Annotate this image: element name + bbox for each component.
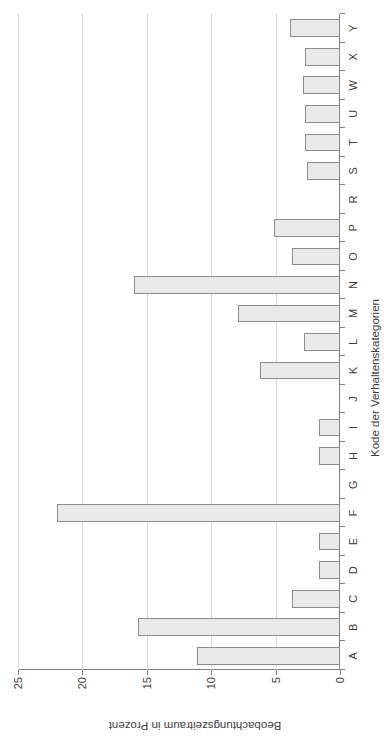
category-axis-tick	[340, 384, 345, 385]
category-axis-tick-label: T	[348, 139, 359, 146]
category-axis-tick-label: U	[348, 110, 359, 118]
category-axis-tick-label: G	[348, 480, 359, 489]
gridline	[18, 14, 19, 670]
category-axis-tick-label: F	[348, 510, 359, 517]
gridline	[211, 14, 212, 670]
category-axis-tick-label: W	[348, 80, 359, 90]
category-axis-title: Kode der Verhaltenskategorien	[369, 299, 381, 457]
category-axis-tick	[340, 583, 345, 584]
bar[interactable]	[260, 362, 340, 380]
category-axis-tick	[340, 184, 345, 185]
value-axis-tick-label: 25	[13, 677, 24, 689]
category-axis-tick-label: R	[348, 195, 359, 203]
category-axis-tick	[340, 13, 345, 14]
value-axis-tick	[18, 670, 19, 675]
value-axis-tick	[82, 670, 83, 675]
category-axis-tick-label: A	[348, 652, 359, 659]
category-axis-tick	[340, 555, 345, 556]
value-axis-title: Beobachtungszeitraum in Prozent	[108, 720, 281, 732]
bar[interactable]	[319, 533, 340, 551]
category-axis-tick	[340, 127, 345, 128]
category-axis-tick	[340, 612, 345, 613]
bar[interactable]	[305, 134, 340, 152]
category-axis-tick-label: H	[348, 452, 359, 460]
category-axis-tick	[340, 412, 345, 413]
bar[interactable]	[197, 647, 340, 665]
value-axis-tick	[276, 670, 277, 675]
category-axis-tick	[340, 156, 345, 157]
gridline	[276, 14, 277, 670]
category-axis-tick	[340, 327, 345, 328]
category-axis-tick	[340, 669, 345, 670]
bar[interactable]	[57, 504, 340, 522]
bar[interactable]	[307, 162, 340, 180]
category-axis-tick-label: K	[348, 367, 359, 374]
gridline	[82, 14, 83, 670]
category-axis-tick	[340, 42, 345, 43]
category-axis-tick	[340, 213, 345, 214]
category-axis-tick-label: Y	[348, 25, 359, 32]
category-axis-tick-label: M	[348, 309, 359, 318]
category-axis-tick-label: L	[348, 339, 359, 345]
value-axis-tick-label: 10	[206, 677, 217, 689]
rotated-figure-container: Beobachtungszeitraum in Prozent Kode der…	[0, 0, 389, 756]
category-axis-tick	[340, 441, 345, 442]
value-axis-tick-label: 20	[77, 677, 88, 689]
bar[interactable]	[305, 105, 340, 123]
bar[interactable]	[319, 419, 340, 437]
category-axis-tick-label: S	[348, 167, 359, 174]
bar[interactable]	[292, 248, 340, 266]
category-axis-tick-label: I	[348, 426, 359, 429]
category-axis-tick	[340, 99, 345, 100]
category-axis-tick-label: P	[348, 224, 359, 231]
plot-area: 0510152025ABCDEFGHIJKLMNOPRSTUWXY	[18, 14, 340, 670]
value-axis-tick-label: 0	[335, 677, 346, 683]
category-axis-tick	[340, 640, 345, 641]
category-axis-tick-label: N	[348, 281, 359, 289]
gridline	[147, 14, 148, 670]
bar[interactable]	[303, 76, 340, 94]
bar[interactable]	[238, 305, 340, 323]
category-axis-tick	[340, 241, 345, 242]
category-axis-tick	[340, 498, 345, 499]
category-axis-tick-label: B	[348, 624, 359, 631]
value-axis-tick	[340, 670, 341, 675]
bar[interactable]	[290, 19, 340, 37]
category-axis-tick-label: D	[348, 566, 359, 574]
bar[interactable]	[319, 561, 340, 579]
value-axis-tick	[147, 670, 148, 675]
category-axis-tick-label: O	[348, 252, 359, 261]
bar[interactable]	[305, 48, 340, 66]
category-axis-tick-label: C	[348, 595, 359, 603]
bar-chart-figure: Beobachtungszeitraum in Prozent Kode der…	[0, 0, 389, 756]
category-axis-tick	[340, 70, 345, 71]
bar[interactable]	[292, 590, 340, 608]
category-axis-tick	[340, 298, 345, 299]
bar[interactable]	[319, 447, 340, 465]
category-axis-tick-label: J	[348, 396, 359, 402]
category-axis-tick	[340, 355, 345, 356]
value-axis-tick	[211, 670, 212, 675]
value-axis-tick-label: 15	[141, 677, 152, 689]
bar[interactable]	[304, 333, 340, 351]
value-axis-tick-label: 5	[270, 677, 281, 683]
category-axis-tick	[340, 270, 345, 271]
bar[interactable]	[134, 276, 340, 294]
category-axis-tick	[340, 526, 345, 527]
category-axis-tick-label: E	[348, 538, 359, 545]
category-axis-tick	[340, 469, 345, 470]
category-axis-tick-label: X	[348, 53, 359, 60]
bar[interactable]	[274, 219, 340, 237]
bar[interactable]	[138, 618, 340, 636]
